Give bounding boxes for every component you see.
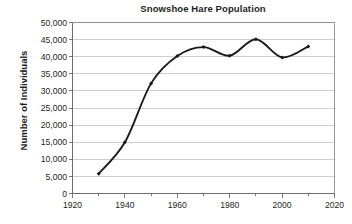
svg-text:2000: 2000 — [273, 200, 292, 210]
snowshoe-hare-population-chart: Snowshoe Hare Population Number of Indiv… — [0, 0, 352, 224]
svg-text:30,000: 30,000 — [41, 86, 68, 96]
svg-text:40,000: 40,000 — [41, 52, 68, 62]
svg-text:50,000: 50,000 — [41, 18, 68, 28]
svg-text:2020: 2020 — [325, 200, 344, 210]
svg-text:10,000: 10,000 — [41, 154, 68, 164]
data-point-markers — [97, 37, 311, 175]
svg-text:1980: 1980 — [220, 200, 239, 210]
svg-text:25,000: 25,000 — [41, 103, 68, 113]
x-axis-tick-labels: 192019401960198020002020 — [63, 200, 344, 210]
svg-text:45,000: 45,000 — [41, 35, 68, 45]
svg-text:1960: 1960 — [168, 200, 187, 210]
svg-text:1940: 1940 — [115, 200, 134, 210]
y-axis-tick-labels: 05,00010,00015,00020,00025,00030,00035,0… — [41, 18, 68, 199]
svg-text:35,000: 35,000 — [41, 69, 68, 79]
svg-text:1920: 1920 — [63, 200, 82, 210]
x-axis-ticks — [73, 194, 335, 198]
svg-text:15,000: 15,000 — [41, 137, 68, 147]
svg-text:5,000: 5,000 — [45, 172, 67, 182]
svg-text:20,000: 20,000 — [41, 120, 68, 130]
plot-area: 05,00010,00015,00020,00025,00030,00035,0… — [0, 0, 352, 224]
population-line — [99, 39, 309, 173]
svg-text:0: 0 — [62, 189, 67, 199]
